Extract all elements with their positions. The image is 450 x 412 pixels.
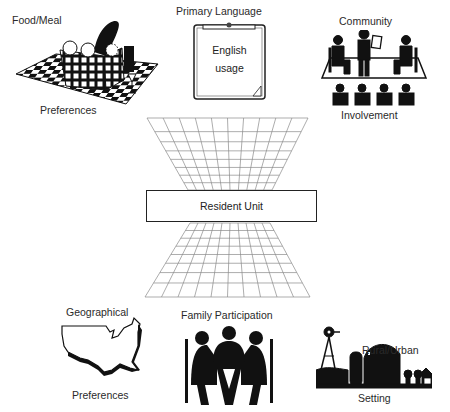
food-meal-subtitle: Preferences: [40, 104, 97, 116]
community-subtitle: Involvement: [341, 109, 398, 121]
rural-urban-subtitle: Setting: [358, 392, 391, 404]
resident-unit-label: Resident Unit: [200, 200, 263, 212]
primary-language-title: Primary Language: [176, 5, 262, 17]
figure-caption-fragment: [0, 406, 450, 412]
clipboard-icon: English usage: [193, 22, 266, 100]
family-table-icon: [183, 325, 275, 405]
usa-map-icon: [58, 316, 144, 386]
clipboard-line-1: English: [193, 40, 266, 60]
resident-unit-box: Resident Unit: [146, 190, 317, 222]
clipboard-line-2: usage: [193, 58, 266, 78]
picnic-basket-icon: [8, 16, 163, 106]
community-title: Community: [339, 15, 392, 27]
family-participation-title: Family Participation: [181, 309, 273, 321]
meeting-stage-icon: [316, 30, 432, 110]
geographical-subtitle: Preferences: [72, 389, 129, 401]
rural-urban-title: Rural/Urban: [362, 344, 419, 356]
farm-windmill-icon: [316, 326, 432, 390]
